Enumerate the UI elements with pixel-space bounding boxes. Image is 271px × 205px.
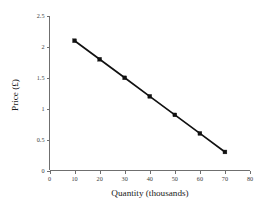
data-point-marker (148, 94, 152, 98)
x-tick-label: 0 (48, 175, 51, 182)
y-tick-label: 2 (41, 43, 44, 50)
y-axis-title: Price (£) (10, 79, 20, 111)
y-tick-label: 0.5 (37, 136, 45, 143)
x-tick-label: 60 (197, 175, 203, 182)
x-tick-label: 70 (222, 175, 228, 182)
chart-background (0, 0, 271, 205)
x-tick-label: 30 (122, 175, 128, 182)
y-tick-label: 1 (41, 105, 44, 112)
chart-figure: 00.511.522.5 01020304050607080 Quantity … (0, 0, 271, 205)
x-axis-title: Quantity (thousands) (111, 188, 188, 198)
y-tick-label: 0 (41, 167, 44, 174)
data-point-marker (123, 76, 127, 80)
y-tick-label: 1.5 (37, 74, 45, 81)
price-quantity-line-chart: 00.511.522.5 01020304050607080 Quantity … (0, 0, 271, 205)
x-tick-label: 40 (147, 175, 153, 182)
x-tick-label: 50 (172, 175, 178, 182)
data-point-marker (223, 150, 227, 154)
data-point-marker (173, 113, 177, 117)
x-tick-label: 80 (247, 175, 253, 182)
x-tick-label: 10 (71, 175, 77, 182)
data-point-marker (73, 39, 77, 43)
data-point-marker (98, 57, 102, 61)
x-tick-label: 20 (97, 175, 103, 182)
y-tick-label: 2.5 (37, 12, 45, 19)
data-point-marker (198, 132, 202, 136)
